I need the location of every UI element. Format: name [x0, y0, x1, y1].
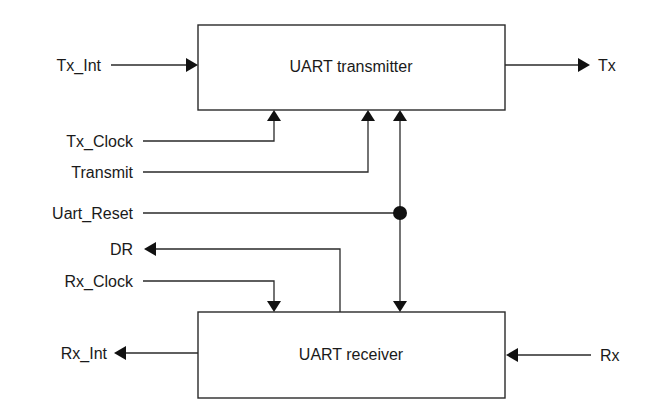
arrow-left-icon	[506, 348, 518, 362]
arrow-left-icon	[144, 242, 156, 256]
uart-transmitter-block: UART transmitter	[198, 25, 505, 110]
tx-clock-signal: Tx_Clock	[66, 110, 281, 151]
arrow-down-icon	[267, 301, 281, 312]
dr-signal: DR	[110, 241, 340, 312]
tx-label: Tx	[598, 57, 616, 74]
tx-signal: Tx	[505, 57, 616, 74]
rx-clock-label: Rx_Clock	[65, 273, 134, 291]
arrow-right-icon	[186, 58, 198, 72]
rx-clock-signal: Rx_Clock	[65, 273, 281, 312]
tx-int-label: Tx_Int	[57, 57, 102, 75]
tx-int-signal: Tx_Int	[57, 57, 198, 75]
receiver-label: UART receiver	[299, 346, 404, 363]
dr-label: DR	[110, 241, 133, 258]
uart-block-diagram: UART transmitter UART receiver Tx_Int Tx…	[0, 0, 653, 419]
arrow-up-icon	[361, 110, 375, 121]
uart-reset-label: Uart_Reset	[52, 205, 133, 223]
arrow-up-icon	[393, 110, 407, 121]
transmit-label: Transmit	[71, 164, 133, 181]
uart-receiver-block: UART receiver	[198, 312, 505, 398]
junction-dot-icon	[393, 206, 407, 220]
arrow-up-icon	[267, 110, 281, 121]
tx-clock-label: Tx_Clock	[66, 133, 134, 151]
arrow-down-icon	[393, 301, 407, 312]
rx-int-label: Rx_Int	[61, 345, 108, 363]
arrow-right-icon	[578, 58, 590, 72]
rx-signal: Rx	[506, 347, 620, 364]
transmitter-label: UART transmitter	[290, 58, 414, 75]
arrow-left-icon	[114, 346, 126, 360]
rx-label: Rx	[600, 347, 620, 364]
rx-int-signal: Rx_Int	[61, 345, 198, 363]
